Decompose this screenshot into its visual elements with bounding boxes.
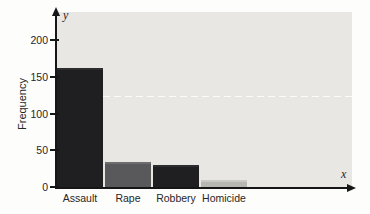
y-axis-title: Frequency xyxy=(15,59,29,149)
y-var-label: y xyxy=(63,9,68,21)
y-tick-label: 0 xyxy=(16,181,48,193)
x-axis-arrow-icon xyxy=(347,184,356,192)
y-axis-arrow-icon xyxy=(52,7,60,16)
bar-chart-figure: 050100150200 AssaultRapeRobberyHomicide … xyxy=(0,0,370,214)
dashed-artifact-line xyxy=(103,96,352,97)
bar-rape xyxy=(105,162,151,187)
y-tick-label: 200 xyxy=(16,34,48,46)
x-category-label-homicide: Homicide xyxy=(189,192,259,205)
bar-assault xyxy=(57,68,103,187)
bar-robbery xyxy=(153,165,199,187)
x-axis-line xyxy=(55,187,348,189)
bar-homicide xyxy=(201,180,247,187)
x-var-label: x xyxy=(341,168,346,180)
y-axis-line xyxy=(55,15,57,189)
